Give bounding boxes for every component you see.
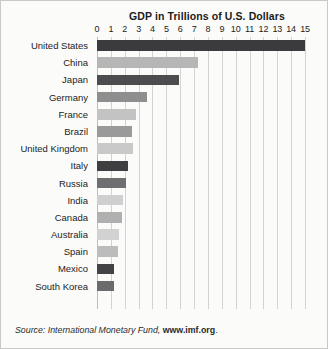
x-tick-label: 5 xyxy=(164,24,169,34)
source-url[interactable]: www.imf.org xyxy=(163,325,215,335)
bar-row xyxy=(97,260,305,277)
bar-row xyxy=(97,140,305,157)
axis-bottom-pad xyxy=(189,295,293,309)
chart-title: GDP in Trillions of U.S. Dollars xyxy=(97,10,317,22)
x-tick-label: 10 xyxy=(231,24,241,34)
category-label: Brazil xyxy=(5,123,91,140)
bar-row xyxy=(97,123,305,140)
bar-row xyxy=(97,157,305,174)
x-tick-label: 3 xyxy=(136,24,141,34)
bar xyxy=(97,212,122,223)
x-tick-label: 1 xyxy=(108,24,113,34)
category-label: Spain xyxy=(5,243,91,260)
bar xyxy=(97,92,147,103)
category-label: India xyxy=(5,192,91,209)
category-label: China xyxy=(5,54,91,71)
category-label: United States xyxy=(5,37,91,54)
bar-row xyxy=(97,278,305,295)
bar-row xyxy=(97,209,305,226)
bar xyxy=(97,109,136,120)
category-label: France xyxy=(5,106,91,123)
bar-row xyxy=(97,226,305,243)
bar xyxy=(97,264,114,275)
category-label: Italy xyxy=(5,157,91,174)
category-label: South Korea xyxy=(5,278,91,295)
x-axis-tick-labels: 0123456789101112131415 xyxy=(97,24,305,37)
category-label: Russia xyxy=(5,175,91,192)
bar-row xyxy=(97,89,305,106)
category-label: Australia xyxy=(5,226,91,243)
source-suffix: . xyxy=(215,325,217,335)
bar xyxy=(97,40,305,51)
source-prefix: Source: International Monetary Fund, xyxy=(15,325,160,335)
bar-row xyxy=(97,54,305,71)
category-label: Germany xyxy=(5,89,91,106)
bar xyxy=(97,75,179,86)
bar xyxy=(97,143,133,154)
bar xyxy=(97,161,128,172)
x-tick-label: 0 xyxy=(95,24,100,34)
bar xyxy=(97,57,198,68)
category-label: Mexico xyxy=(5,260,91,277)
x-tick-label: 9 xyxy=(219,24,224,34)
x-tick-label: 8 xyxy=(206,24,211,34)
bar-row xyxy=(97,106,305,123)
bar xyxy=(97,126,132,137)
x-tick-label: 6 xyxy=(178,24,183,34)
x-tick-label: 15 xyxy=(300,24,310,34)
category-label: Canada xyxy=(5,209,91,226)
bar xyxy=(97,178,126,189)
bar-row xyxy=(97,71,305,88)
x-tick-label: 2 xyxy=(122,24,127,34)
x-tick-label: 12 xyxy=(259,24,269,34)
category-label: Japan xyxy=(5,71,91,88)
bar xyxy=(97,195,123,206)
x-tick-label: 11 xyxy=(245,24,254,34)
category-label: United Kingdom xyxy=(5,140,91,157)
bar xyxy=(97,281,114,292)
gridline xyxy=(305,37,306,309)
category-labels: United StatesChinaJapanGermanyFranceBraz… xyxy=(5,37,91,295)
bar-row xyxy=(97,243,305,260)
chart-figure: GDP in Trillions of U.S. Dollars 0123456… xyxy=(0,0,328,349)
bar-series xyxy=(97,37,305,295)
x-tick-label: 4 xyxy=(150,24,155,34)
chart-inner: GDP in Trillions of U.S. Dollars 0123456… xyxy=(1,1,327,348)
bar xyxy=(97,246,118,257)
x-tick-label: 13 xyxy=(272,24,282,34)
bar-row xyxy=(97,192,305,209)
source-note: Source: International Monetary Fund, www… xyxy=(15,325,218,335)
x-tick-label: 7 xyxy=(192,24,197,34)
x-tick-label: 14 xyxy=(286,24,296,34)
bar-row xyxy=(97,175,305,192)
bar xyxy=(97,229,119,240)
plot-area xyxy=(97,37,305,309)
bar-row xyxy=(97,37,305,54)
